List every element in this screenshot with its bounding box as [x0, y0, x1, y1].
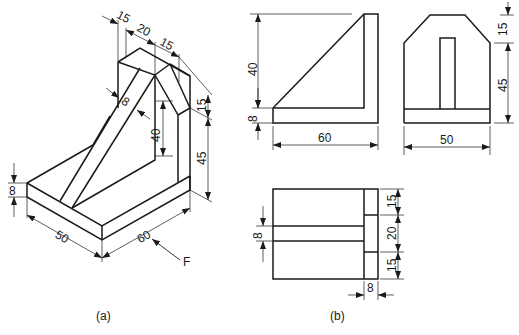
side-dim-15: 15 — [496, 22, 510, 36]
isometric-view: 15 20 15 8 40 15 45 — [8, 7, 212, 323]
top-dim-8-wall: 8 — [367, 281, 374, 295]
iso-dim-15-right: 15 — [195, 98, 209, 112]
side-dim-50: 50 — [440, 133, 454, 147]
iso-dim-45-right: 45 — [195, 151, 209, 165]
iso-dim-bottom: 50 60 — [27, 190, 190, 262]
front-dim-40: 40 — [246, 62, 260, 76]
caption-a: (a) — [96, 309, 111, 323]
iso-dim-40-text: 40 — [149, 128, 163, 142]
iso-dim-8-base: 8 — [9, 184, 16, 198]
iso-dim-60: 60 — [135, 227, 154, 246]
view-direction-arrow: F — [152, 239, 190, 269]
iso-base — [27, 145, 190, 240]
iso-dim-8-rib: 8 — [119, 94, 133, 109]
front-view: 40 8 60 — [246, 14, 378, 150]
top-dim-15-b: 15 — [385, 258, 399, 272]
top-dim-15-a: 15 — [385, 194, 399, 208]
top-dim-8-rib: 8 — [251, 232, 265, 239]
iso-dim-15b: 15 — [158, 35, 177, 54]
side-dim-45: 45 — [496, 78, 510, 92]
technical-drawing: 15 20 15 8 40 15 45 — [0, 0, 519, 335]
view-arrow-label: F — [183, 255, 190, 269]
front-dim-60: 60 — [318, 131, 332, 145]
iso-dim-20: 20 — [135, 21, 154, 40]
top-view: 8 15 20 15 8 — [251, 189, 404, 300]
iso-dim-50: 50 — [53, 227, 72, 246]
iso-dim-right: 15 45 — [190, 95, 212, 202]
side-view: 15 45 50 — [404, 2, 514, 155]
iso-dim-40: 40 — [149, 101, 173, 156]
iso-dim-base-8: 8 — [8, 163, 27, 217]
caption-b: (b) — [330, 309, 345, 323]
front-dim-8: 8 — [246, 115, 260, 122]
top-dim-20: 20 — [385, 226, 399, 240]
